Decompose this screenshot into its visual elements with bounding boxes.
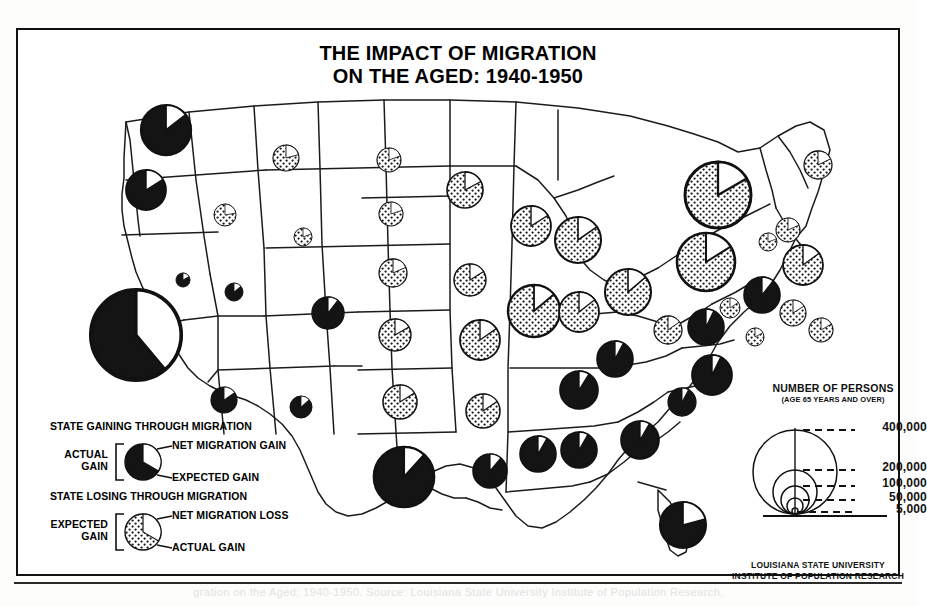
pie-symbol-az — [211, 387, 237, 413]
pie-symbol-mi — [555, 217, 601, 263]
credit-line-1: LOUISIANA STATE UNIVERSITY — [718, 560, 918, 571]
pie-symbol-mo — [460, 320, 500, 360]
key-losing-right-top: NET MIGRATION LOSS — [172, 509, 289, 521]
pie-symbol-ia — [454, 264, 486, 296]
key-losing-right-bottom: ACTUAL GAIN — [172, 541, 245, 553]
pie-symbol-tx — [374, 447, 434, 507]
pie-symbol-tn — [560, 371, 598, 409]
pie-symbol-ne — [379, 259, 407, 287]
size-scale-legend: NUMBER OF PERSONS (AGE 65 YEARS AND OVER… — [753, 382, 913, 404]
key-gaining-left-line-1: ACTUAL — [50, 448, 108, 460]
pie-symbol-nm — [290, 396, 312, 418]
pie-symbol-me — [804, 151, 832, 179]
pie-symbol-de — [746, 328, 764, 346]
pie-symbol-wi — [511, 206, 551, 246]
key-losing-heading: STATE LOSING THROUGH MIGRATION — [50, 490, 310, 502]
key-losing-block: EXPECTED GAIN NET MIGRATION LOSS ACTUAL … — [50, 502, 310, 558]
pie-symbol-pa — [677, 233, 735, 291]
page-bleed-top — [20, 2, 897, 18]
pie-symbol-mt — [273, 145, 299, 171]
pie-symbol-nd — [377, 148, 401, 172]
key-losing-left-label: EXPECTED GAIN — [50, 518, 108, 542]
pie-symbol-sc — [668, 388, 696, 416]
pie-wedge — [225, 204, 236, 215]
pie-symbol-wy — [294, 228, 312, 246]
pie-symbol-ma — [783, 245, 823, 285]
pie-symbol-ny — [685, 162, 751, 228]
pie-symbol-nj — [744, 277, 780, 313]
pie-symbol-ut — [225, 283, 243, 301]
pie-symbol-nv — [176, 273, 190, 287]
scale-value-0: 400,000 — [865, 420, 927, 434]
pie-symbol-ok — [383, 385, 417, 419]
pie-symbol-vt — [759, 233, 777, 251]
pie-symbol-il — [508, 285, 560, 337]
key-gaining-left-line-2: GAIN — [50, 460, 108, 472]
pie-symbol-ct — [780, 300, 806, 326]
key-gaining-block: ACTUAL GAIN NET MIGRATION GAIN EXPECTED … — [50, 432, 310, 488]
pie-symbol-sd — [379, 202, 403, 226]
pie-symbol-ks — [379, 319, 411, 351]
pie-symbol-wa — [141, 105, 191, 155]
pie-symbol-co — [312, 297, 344, 329]
symbol-key-legend: STATE GAINING THROUGH MIGRATION ACTUAL G… — [50, 420, 310, 558]
key-gaining-right-top: NET MIGRATION GAIN — [172, 439, 286, 451]
map-frame: THE IMPACT OF MIGRATION ON THE AGED: 194… — [16, 28, 900, 576]
scale-value-4: 5,000 — [865, 502, 927, 516]
pie-symbol-nh — [776, 218, 800, 242]
pie-symbol-ca — [91, 290, 181, 380]
scale-value-2: 100,000 — [865, 476, 927, 490]
pie-symbol-la — [473, 454, 507, 488]
pie-symbol-oh — [605, 269, 651, 315]
scale-title: NUMBER OF PERSONS — [753, 382, 913, 394]
key-gaining-heading: STATE GAINING THROUGH MIGRATION — [50, 420, 310, 432]
pie-symbol-ri — [809, 318, 833, 342]
pie-symbol-nc — [692, 355, 732, 395]
key-losing-left-line-2: GAIN — [50, 530, 108, 542]
page-bleed-bottom: gration on the Aged: 1940-1950. Source: … — [0, 578, 917, 606]
pie-symbol-ar — [466, 394, 500, 428]
pie-symbol-va — [688, 309, 724, 345]
key-gaining-right-bottom: EXPECTED GAIN — [172, 471, 259, 483]
pie-symbol-ky — [597, 341, 633, 377]
pie-symbol-id — [214, 204, 236, 226]
pie-symbol-mn — [447, 172, 483, 208]
key-gaining-left-label: ACTUAL GAIN — [50, 448, 108, 472]
pie-symbol-ms — [520, 436, 556, 472]
pie-symbol-md — [720, 298, 740, 318]
pie-symbol-al — [561, 432, 597, 468]
pie-symbol-wv — [654, 316, 682, 344]
pie-symbol-ga — [621, 421, 659, 459]
scale-subtitle: (AGE 65 YEARS AND OVER) — [753, 395, 913, 404]
scale-value-1: 200,000 — [865, 460, 927, 474]
key-losing-left-line-1: EXPECTED — [50, 518, 108, 530]
pie-symbol-fl — [660, 502, 706, 548]
pie-symbol-in — [559, 292, 599, 332]
pie-symbol-or — [126, 170, 166, 210]
